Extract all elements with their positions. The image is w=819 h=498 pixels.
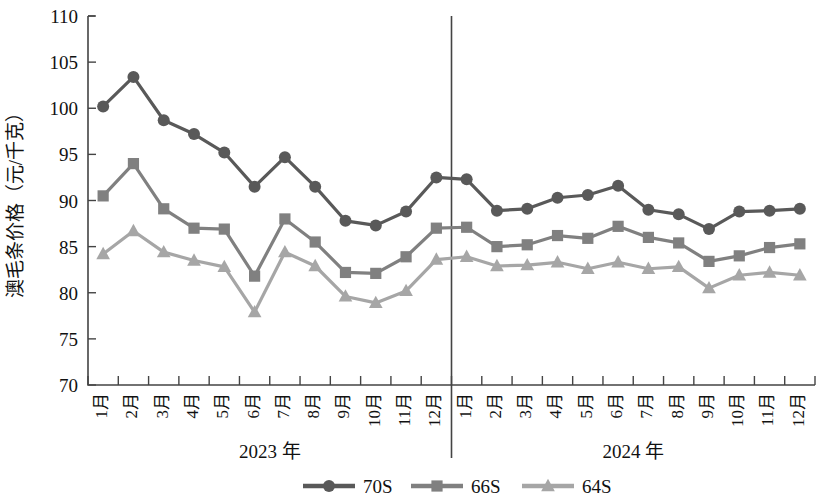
x-month-label: 12月 <box>789 393 808 427</box>
data-point-66s-1 <box>128 158 139 169</box>
y-axis-ticks: 707580859095100105110 <box>50 6 97 396</box>
data-point-66s-10 <box>400 251 411 262</box>
data-point-70s-3 <box>188 128 200 140</box>
x-month-label: 3月 <box>153 393 172 419</box>
y-axis-title: 澳毛条价格（元/千克） <box>5 103 26 298</box>
x-month-label: 10月 <box>365 393 384 427</box>
data-point-64s-17 <box>611 255 625 267</box>
data-point-70s-22 <box>764 205 776 217</box>
data-point-66s-0 <box>98 190 109 201</box>
data-point-70s-23 <box>794 203 806 215</box>
data-point-66s-21 <box>734 250 745 261</box>
x-month-label: 7月 <box>274 393 293 419</box>
x-year-label: 2024 年 <box>602 441 664 462</box>
x-month-label: 9月 <box>334 393 353 419</box>
x-month-label: 11月 <box>758 393 777 426</box>
x-month-label: 8月 <box>668 393 687 419</box>
data-point-70s-10 <box>400 206 412 218</box>
data-point-66s-11 <box>431 223 442 234</box>
legend-item-64s: 64S <box>522 476 612 497</box>
legend-label-66s: 66S <box>471 476 501 497</box>
y-tick-label: 80 <box>59 283 78 304</box>
x-month-label: 10月 <box>728 393 747 427</box>
chart-legend: 70S66S64S <box>303 476 612 497</box>
data-point-66s-19 <box>673 237 684 248</box>
data-point-66s-4 <box>219 223 230 234</box>
x-year-label: 2023 年 <box>239 441 301 462</box>
data-point-66s-14 <box>522 239 533 250</box>
data-point-66s-20 <box>703 256 714 267</box>
legend-label-70s: 70S <box>363 476 393 497</box>
y-tick-label: 110 <box>50 6 78 27</box>
x-month-label: 1月 <box>92 393 111 419</box>
data-point-64s-2 <box>157 245 171 257</box>
x-month-label: 2月 <box>486 393 505 419</box>
legend-item-66s: 66S <box>411 476 501 497</box>
data-point-64s-6 <box>278 245 292 257</box>
data-point-66s-5 <box>249 271 260 282</box>
data-point-66s-22 <box>764 242 775 253</box>
data-point-70s-0 <box>97 100 109 112</box>
data-point-70s-8 <box>339 215 351 227</box>
legend-item-70s: 70S <box>303 476 393 497</box>
data-point-70s-16 <box>582 189 594 201</box>
x-axis-month-labels: 1月2月3月4月5月6月7月8月9月10月11月12月1月2月3月4月5月6月7… <box>92 393 808 427</box>
data-point-66s-8 <box>340 267 351 278</box>
data-point-70s-4 <box>218 147 230 159</box>
data-point-70s-20 <box>703 223 715 235</box>
chart-container: 澳毛条价格（元/千克） 707580859095100105110 1月2月3月… <box>0 0 819 498</box>
data-point-70s-11 <box>430 171 442 183</box>
data-point-70s-17 <box>612 180 624 192</box>
data-point-70s-12 <box>461 173 473 185</box>
x-month-label: 12月 <box>425 393 444 427</box>
price-line-chart: 澳毛条价格（元/千克） 707580859095100105110 1月2月3月… <box>0 0 819 498</box>
x-axis-ticks <box>88 16 815 458</box>
data-point-70s-9 <box>370 219 382 231</box>
data-point-66s-2 <box>158 203 169 214</box>
y-tick-label: 90 <box>59 191 78 212</box>
x-month-label: 4月 <box>546 393 565 419</box>
y-tick-label: 75 <box>59 329 78 350</box>
x-month-label: 6月 <box>607 393 626 419</box>
data-point-70s-14 <box>521 203 533 215</box>
data-point-66s-18 <box>643 232 654 243</box>
x-month-label: 5月 <box>213 393 232 419</box>
x-month-label: 9月 <box>698 393 717 419</box>
data-point-66s-13 <box>491 241 502 252</box>
data-point-70s-1 <box>127 71 139 83</box>
x-month-label: 4月 <box>183 393 202 419</box>
x-month-label: 3月 <box>516 393 535 419</box>
data-point-70s-2 <box>158 114 170 126</box>
data-point-66s-6 <box>279 213 290 224</box>
data-point-70s-15 <box>552 192 564 204</box>
legend-label-64s: 64S <box>582 476 612 497</box>
y-tick-label: 100 <box>50 98 79 119</box>
data-point-66s-9 <box>370 268 381 279</box>
legend-marker-70s <box>323 480 335 492</box>
data-point-66s-15 <box>552 230 563 241</box>
x-month-label: 7月 <box>637 393 656 419</box>
data-point-66s-17 <box>613 221 624 232</box>
data-point-66s-3 <box>188 223 199 234</box>
x-month-label: 2月 <box>122 393 141 419</box>
data-point-70s-13 <box>491 205 503 217</box>
data-point-70s-21 <box>733 206 745 218</box>
x-month-label: 11月 <box>395 393 414 426</box>
data-point-70s-18 <box>642 204 654 216</box>
y-tick-label: 95 <box>59 144 78 165</box>
x-month-label: 5月 <box>577 393 596 419</box>
x-month-label: 1月 <box>456 393 475 419</box>
data-point-66s-12 <box>461 222 472 233</box>
y-axis-label: 澳毛条价格（元/千克） <box>5 103 26 298</box>
data-point-70s-19 <box>673 208 685 220</box>
data-point-70s-7 <box>309 181 321 193</box>
x-month-label: 8月 <box>304 393 323 419</box>
data-point-70s-5 <box>249 181 261 193</box>
legend-marker-66s <box>431 480 442 491</box>
y-tick-label: 85 <box>59 237 78 258</box>
x-month-label: 6月 <box>244 393 263 419</box>
data-point-66s-23 <box>794 238 805 249</box>
y-tick-label: 70 <box>59 375 78 396</box>
data-point-66s-16 <box>582 233 593 244</box>
data-point-66s-7 <box>310 236 321 247</box>
